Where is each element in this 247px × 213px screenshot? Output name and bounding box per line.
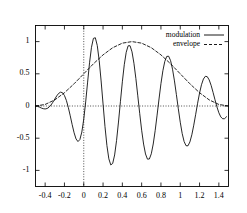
legend-label-envelope: envelope	[120, 40, 200, 48]
chart-figure: -0.4-0.200.20.40.60.811.21.410.50-0.5-1 …	[0, 0, 247, 213]
x-tick-label: 1.4	[204, 192, 234, 200]
y-tick-label: 1	[2, 37, 30, 45]
legend-label-modulation: modulation	[120, 31, 200, 39]
y-tick-label: 0.5	[2, 69, 30, 77]
zero-reference-lines	[36, 26, 229, 187]
y-tick-label: -1	[2, 166, 30, 174]
y-tick-label: 0	[2, 102, 30, 110]
series-line-modulation	[36, 38, 227, 165]
data-series	[36, 38, 229, 165]
legend-keys	[204, 35, 224, 45]
y-tick-label: -0.5	[2, 134, 30, 142]
